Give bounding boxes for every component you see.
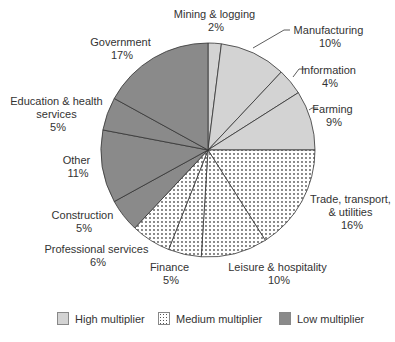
legend-item-medium: Medium multiplier xyxy=(158,312,262,325)
legend-item-low: Low multiplier xyxy=(279,312,364,325)
label-professional: Professional services 6% xyxy=(45,243,152,268)
low-multiplier-swatch-icon xyxy=(279,312,291,325)
label-education: Education & health services 5% xyxy=(10,95,105,133)
legend-label-low: Low multiplier xyxy=(297,313,364,325)
high-multiplier-swatch-icon xyxy=(57,312,69,325)
label-trade: Trade, transport, & utilities 16% xyxy=(310,193,394,231)
label-manufacturing: Manufacturing 10% xyxy=(294,24,367,49)
legend-item-high: High multiplier xyxy=(57,312,145,325)
legend-label-medium: Medium multiplier xyxy=(176,313,262,325)
pie-slices xyxy=(101,43,315,257)
legend: High multiplier Medium multiplier Low mu… xyxy=(0,312,395,332)
label-government: Government 17% xyxy=(90,36,154,61)
label-construction: Construction 5% xyxy=(52,209,117,234)
label-other: Other 11% xyxy=(63,154,94,179)
label-finance: Finance 5% xyxy=(150,261,192,286)
label-information: Information 4% xyxy=(301,64,359,89)
legend-label-high: High multiplier xyxy=(75,313,145,325)
label-mining: Mining & logging 2% xyxy=(174,8,258,33)
medium-multiplier-swatch-icon xyxy=(158,312,170,325)
label-leisure: Leisure & hospitality 10% xyxy=(228,261,330,286)
label-farming: Farming 9% xyxy=(312,103,355,128)
pie-chart: Mining & logging 2% Manufacturing 10% In… xyxy=(0,0,395,342)
